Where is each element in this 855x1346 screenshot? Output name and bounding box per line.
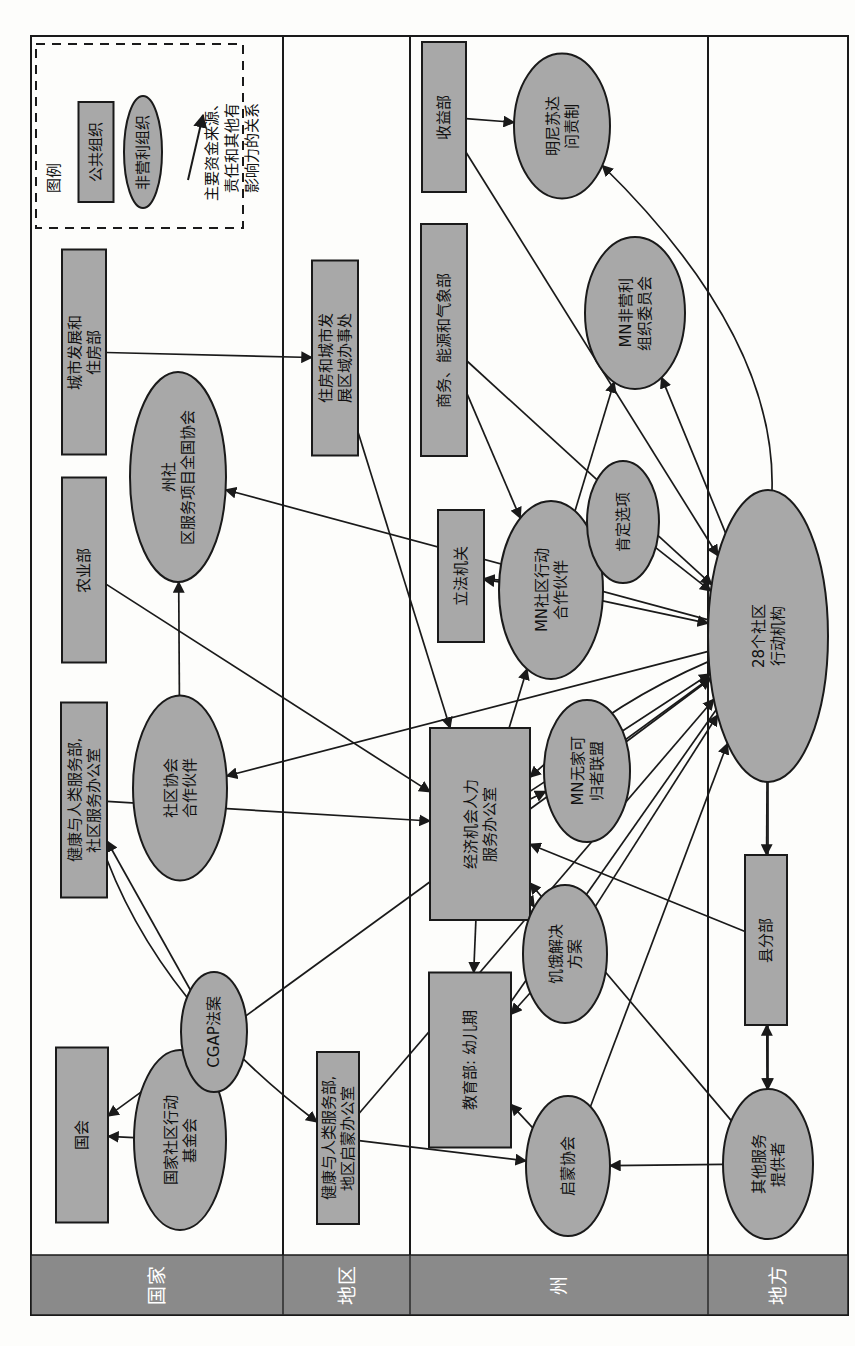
node-county-div[interactable]: 县分部	[745, 855, 787, 1025]
node-revenue-dept[interactable]: 收益部	[422, 42, 466, 192]
node-shape-rect	[430, 728, 530, 920]
legend: 图例公共组织非营利组织主要资金来源、责任和其他有影响力的关系	[36, 44, 261, 228]
node-mn-nonprofits[interactable]: MN非营利组织委员会	[585, 237, 685, 389]
node-label-commerce-dept: 商务、能源和气象部	[435, 273, 453, 408]
node-label-mn-accountability: 明尼苏达问责制	[544, 96, 581, 156]
node-oeo-hs[interactable]: 经济机会人力服务办公室	[430, 728, 530, 920]
node-label-county-div: 县分部	[757, 918, 775, 963]
node-label-affirm-options: 肯定选项	[614, 492, 632, 552]
legend-arrow-label-line: 主要资金来源、	[203, 96, 221, 201]
node-hunger-sol[interactable]: 饥饿解决方案	[523, 885, 607, 1023]
node-label-cgap-act: CGAP法案	[205, 996, 223, 1067]
legend-nonprofit-label: 非营利组织	[134, 115, 152, 190]
node-agriculture[interactable]: 农业部	[62, 478, 106, 663]
relationship-edge-mn-homeless-to-caa28	[626, 679, 710, 742]
node-affirm-options[interactable]: 肯定选项	[587, 461, 659, 583]
band-label-level-local: 地方	[767, 1265, 789, 1305]
relationship-edge-hud-to-hud-regional	[106, 353, 312, 358]
node-mn-homeless[interactable]: MN无家可归者联盟	[544, 700, 630, 842]
relationship-edge-mncap-to-caa28	[603, 601, 709, 623]
node-shape-ellipse	[708, 490, 828, 782]
band-label-level-national: 国家	[146, 1265, 168, 1305]
node-hud-regional[interactable]: 住房和城市发展区域办事处	[312, 261, 358, 456]
node-label-mn-homeless: MN无家可归者联盟	[569, 736, 606, 805]
node-cgap-act[interactable]: CGAP法案	[181, 972, 247, 1092]
node-label-headstart-assoc: 启蒙协会	[559, 1136, 577, 1196]
relationship-edge-cap-partner-to-nascsp	[179, 582, 180, 696]
diagram-page: 城市发展和住房部农业部健康与人类服务部,社区服务办公室国会州社区服务项目全国协会…	[0, 0, 855, 1346]
node-mn-accountability[interactable]: 明尼苏达问责制	[514, 54, 610, 199]
relationship-edge-hud-regional-to-oeo-hs	[358, 432, 450, 728]
node-shape-ellipse	[523, 885, 607, 1023]
relationship-edge-oeo-hs-to-education-ec	[474, 920, 476, 973]
legend-arrow-label-line: 影响力的关系	[243, 103, 261, 193]
node-congress[interactable]: 国会	[56, 1048, 108, 1223]
node-label-hhs-headstart: 健康与人类服务部,地区启蒙办公室	[320, 1076, 357, 1201]
relationship-edge-oeo-hs-to-mn-homeless	[530, 791, 546, 799]
relationship-edge-ncaf-to-congress	[108, 1136, 134, 1137]
node-cap-partner[interactable]: 社区协会合作伙伴	[133, 696, 227, 881]
node-hhs-ocs[interactable]: 健康与人类服务部,社区服务办公室	[61, 703, 107, 898]
node-commerce-dept[interactable]: 商务、能源和气象部	[421, 224, 467, 456]
node-legislature[interactable]: 立法机关	[438, 510, 484, 642]
node-shape-ellipse	[585, 237, 685, 389]
node-caa28[interactable]: 28个社区行动机构	[708, 490, 828, 782]
node-label-mn-nonprofits: MN非营利组织委员会	[617, 276, 654, 351]
node-label-hhs-ocs: 健康与人类服务部,社区服务办公室	[66, 738, 103, 863]
node-shape-ellipse	[514, 54, 610, 199]
node-other-providers[interactable]: 其他服务提供者	[723, 1089, 813, 1239]
legend-public-label: 公共组织	[87, 122, 105, 182]
relationship-edge-revenue-dept-to-mn-accountability	[466, 119, 514, 123]
node-label-education-ec: 教育部: 幼儿期	[461, 1010, 479, 1110]
relationship-edge-headstart-assoc-to-education-ec	[511, 1104, 533, 1128]
node-label-legislature: 立法机关	[452, 546, 470, 606]
relationship-edge-other-providers-to-county-div	[767, 1025, 768, 1089]
node-shape-ellipse	[723, 1089, 813, 1239]
band-label-level-regional: 地区	[336, 1265, 358, 1305]
node-label-mncap: MN社区行动合作伙伴	[533, 548, 570, 632]
relationship-edge-other-providers-to-headstart-assoc	[610, 1164, 723, 1165]
node-hhs-headstart[interactable]: 健康与人类服务部,地区启蒙办公室	[317, 1052, 359, 1224]
node-label-revenue-dept: 收益部	[435, 95, 453, 140]
legend-arrow-icon	[188, 115, 203, 180]
node-shape-ellipse	[133, 696, 227, 881]
relationship-edge-commerce-dept-to-mncap	[467, 394, 520, 519]
node-layer: 城市发展和住房部农业部健康与人类服务部,社区服务办公室国会州社区服务项目全国协会…	[56, 42, 828, 1239]
node-hud[interactable]: 城市发展和住房部	[62, 250, 106, 455]
legend-arrow-label-line: 责任和其他有	[223, 103, 241, 193]
node-label-hud-regional: 住房和城市发展区域办事处	[317, 313, 354, 403]
node-shape-ellipse	[130, 372, 226, 582]
legend-title: 图例	[45, 163, 63, 193]
diagram-canvas: 城市发展和住房部农业部健康与人类服务部,社区服务办公室国会州社区服务项目全国协会…	[0, 0, 855, 1346]
node-label-agriculture: 农业部	[75, 548, 93, 593]
level-band: 国家地区州地方	[31, 1255, 848, 1315]
node-label-other-providers: 其他服务提供者	[750, 1134, 787, 1194]
node-label-congress: 国会	[73, 1120, 91, 1150]
node-label-caa28: 28个社区行动机构	[750, 604, 787, 668]
node-headstart-assoc[interactable]: 启蒙协会	[526, 1096, 610, 1236]
node-nascsp[interactable]: 州社区服务项目全国协会	[130, 372, 226, 582]
relationship-edge-affirm-options-to-caa28	[656, 548, 711, 591]
relationship-edge-caa28-to-mn-nonprofits	[662, 377, 726, 533]
node-label-cap-partner: 社区协会合作伙伴	[162, 758, 199, 818]
node-shape-ellipse	[544, 700, 630, 842]
node-label-oeo-hs: 经济机会人力服务办公室	[462, 779, 499, 869]
node-education-ec[interactable]: 教育部: 幼儿期	[429, 973, 511, 1148]
band-label-level-state: 州	[548, 1275, 570, 1295]
relationship-edge-hunger-sol-to-education-ec	[511, 993, 530, 1015]
